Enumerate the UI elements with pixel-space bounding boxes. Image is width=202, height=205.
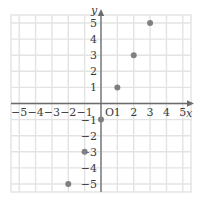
x-tick-label: −5 — [11, 106, 27, 119]
y-tick-label: −2 — [81, 130, 97, 143]
x-tick-label: −4 — [27, 106, 43, 119]
y-tick-label: −5 — [81, 178, 97, 191]
x-tick-label: 3 — [147, 106, 154, 119]
x-tick-label: 1 — [114, 106, 121, 119]
data-point — [131, 52, 137, 58]
data-point — [147, 20, 153, 26]
y-tick-label: 2 — [90, 65, 97, 78]
x-axis-label: x — [186, 107, 193, 120]
x-tick-label: 2 — [130, 106, 137, 119]
y-tick-label: −4 — [81, 162, 97, 175]
coordinate-plane-figure: −5−4−3−2−112345−5−4−3−2−112345O xy — [0, 0, 202, 205]
x-tick-label: −2 — [60, 106, 76, 119]
origin-label: O — [105, 106, 114, 119]
x-tick-label: −3 — [44, 106, 60, 119]
y-tick-label: −1 — [81, 114, 97, 127]
data-point — [65, 181, 71, 187]
data-point — [98, 117, 104, 123]
y-tick-label: 1 — [90, 81, 97, 94]
x-tick-label: 4 — [163, 106, 170, 119]
scatter-plot-svg: −5−4−3−2−112345−5−4−3−2−112345O xy — [0, 0, 202, 205]
data-point — [114, 84, 120, 90]
y-tick-label: 3 — [90, 49, 97, 62]
data-point — [82, 149, 88, 155]
y-axis-label: y — [90, 4, 98, 17]
y-tick-label: 5 — [90, 17, 97, 30]
y-tick-label: 4 — [90, 33, 97, 46]
